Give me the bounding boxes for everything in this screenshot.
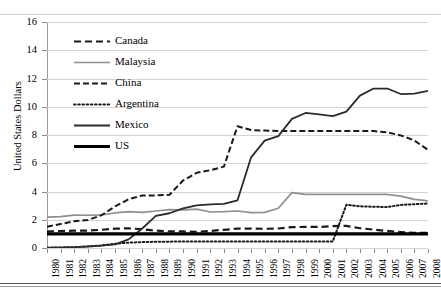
x-tick-label: 1993: [228, 259, 238, 278]
x-tick-mark: [251, 249, 252, 253]
y-tick-label: 2: [9, 215, 37, 225]
x-tick-label: 2003: [364, 259, 374, 278]
y-axis-title: United States Dollars: [12, 81, 23, 171]
figure-top-rule: [0, 14, 441, 15]
legend-line-swatch-icon: [73, 115, 111, 136]
x-tick-label: 1990: [187, 259, 197, 278]
x-tick-label: 1997: [282, 259, 292, 278]
x-tick-label: 1996: [269, 259, 279, 278]
x-tick-mark: [129, 249, 130, 253]
x-tick-label: 1981: [65, 259, 75, 278]
series-line-canada: [47, 226, 428, 233]
x-tick-label: 1988: [160, 259, 170, 278]
x-tick-label: 1983: [92, 259, 102, 278]
y-tick-label: 16: [9, 17, 37, 27]
x-tick-label: 2000: [323, 259, 333, 278]
x-tick-mark: [101, 249, 102, 253]
x-tick-mark: [142, 249, 143, 253]
x-tick-mark: [374, 249, 375, 253]
x-tick-mark: [306, 249, 307, 253]
legend-item-label: China: [115, 76, 141, 88]
x-tick-label: 1989: [173, 259, 183, 278]
x-tick-mark: [156, 249, 157, 253]
x-tick-mark: [346, 249, 347, 253]
x-tick-mark: [88, 249, 89, 253]
x-tick-mark: [360, 249, 361, 253]
x-tick-label: 2007: [418, 259, 428, 278]
x-tick-mark: [210, 249, 211, 253]
x-tick-label: 1992: [214, 259, 224, 278]
x-tick-label: 2004: [378, 259, 388, 278]
x-tick-mark: [428, 249, 429, 253]
figure-bottom-rule-2: [0, 286, 441, 287]
x-tick-mark: [47, 249, 48, 253]
legend-item-label: Argentina: [115, 97, 159, 109]
x-tick-label: 1986: [133, 259, 143, 278]
x-tick-mark: [224, 249, 225, 253]
x-tick-label: 2005: [391, 259, 401, 278]
x-tick-label: 1982: [78, 259, 88, 278]
x-tick-label: 2008: [432, 259, 441, 278]
figure-bottom-rule-1: [0, 283, 441, 284]
x-tick-label: 1998: [296, 259, 306, 278]
x-tick-mark: [74, 249, 75, 253]
x-tick-label: 2006: [405, 259, 415, 278]
x-tick-mark: [265, 249, 266, 253]
x-tick-label: 1991: [201, 259, 211, 278]
legend-line-swatch-icon: [73, 52, 111, 73]
x-tick-label: 1994: [242, 259, 252, 278]
x-tick-mark: [238, 249, 239, 253]
x-tick-mark: [387, 249, 388, 253]
x-tick-label: 1985: [119, 259, 129, 278]
x-tick-mark: [115, 249, 116, 253]
x-tick-label: 2002: [350, 259, 360, 278]
y-tick-label: 0: [9, 243, 37, 253]
x-tick-label: 1984: [105, 259, 115, 278]
legend-line-swatch-icon: [73, 73, 111, 94]
legend-item-label: Canada: [115, 34, 148, 46]
x-tick-mark: [197, 249, 198, 253]
legend-line-swatch-icon: [73, 94, 111, 115]
chart-figure: 0246810121416 19801981198219831984198519…: [0, 0, 441, 293]
x-tick-label: 1999: [310, 259, 320, 278]
y-tick-label: 4: [9, 187, 37, 197]
x-tick-mark: [333, 249, 334, 253]
legend-line-swatch-icon: [73, 31, 111, 52]
x-tick-mark: [183, 249, 184, 253]
x-tick-mark: [292, 249, 293, 253]
x-tick-mark: [401, 249, 402, 253]
x-tick-mark: [319, 249, 320, 253]
legend-item-label: Mexico: [115, 118, 149, 130]
legend-item-label: US: [115, 139, 129, 151]
x-tick-mark: [61, 249, 62, 253]
x-tick-label: 1995: [255, 259, 265, 278]
x-tick-mark: [278, 249, 279, 253]
y-tick-label: 14: [9, 45, 37, 55]
x-tick-label: 2001: [337, 259, 347, 278]
x-tick-label: 1987: [146, 259, 156, 278]
x-tick-mark: [414, 249, 415, 253]
legend-line-swatch-icon: [73, 136, 111, 157]
x-tick-mark: [169, 249, 170, 253]
x-tick-label: 1980: [51, 259, 61, 278]
legend-item-label: Malaysia: [115, 55, 155, 67]
